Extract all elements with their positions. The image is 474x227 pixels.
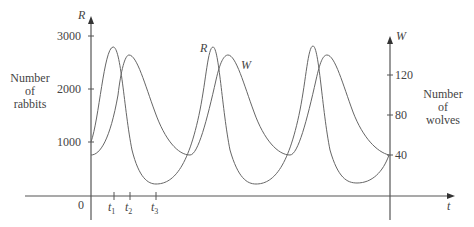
t3-label: t3 <box>151 200 158 216</box>
t1-subscript: 1 <box>111 207 115 216</box>
r-axis-label: R <box>78 9 85 22</box>
wolf-curve-label: W <box>241 59 251 72</box>
r-tick-2000: 2000 <box>57 82 81 97</box>
t2-subscript: 2 <box>128 207 132 216</box>
right-axis-title: Number of wolves <box>418 88 468 127</box>
r-axis-arrow-icon <box>88 16 94 24</box>
w-axis-label: W <box>396 30 406 43</box>
w-tick-40: 40 <box>395 148 407 163</box>
t3-subscript: 3 <box>154 207 158 216</box>
rabbit-curve <box>91 46 389 184</box>
w-tick-80: 80 <box>395 108 407 123</box>
right-title-line-3: wolves <box>418 114 468 127</box>
t1-label: t1 <box>108 200 115 216</box>
w-tick-120: 120 <box>395 68 413 83</box>
origin-label: 0 <box>78 199 84 212</box>
t-axis-label: t <box>447 200 450 213</box>
t2-label: t2 <box>125 200 132 216</box>
r-tick-3000: 3000 <box>57 29 81 44</box>
left-axis-title: Number of rabbits <box>4 72 56 111</box>
wolf-curve <box>91 55 389 155</box>
rabbit-curve-label: R <box>200 42 207 55</box>
w-axis-arrow-icon <box>387 36 393 44</box>
left-title-line-3: rabbits <box>4 98 56 111</box>
r-tick-1000: 1000 <box>57 135 81 150</box>
